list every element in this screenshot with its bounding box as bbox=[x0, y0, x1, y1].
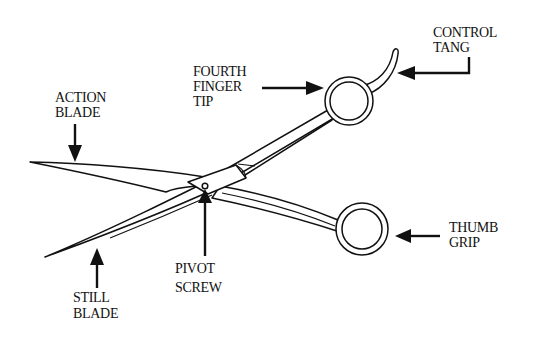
scissors-diagram: ACTION BLADE FOURTH FINGER TIP CONTROL T… bbox=[0, 0, 536, 338]
action-blade bbox=[30, 162, 205, 192]
action-blade-label-line2: BLADE bbox=[55, 105, 100, 120]
pivot-screw-label-line2: SCREW bbox=[175, 280, 223, 295]
control-tang-label-line1: CONTROL bbox=[433, 25, 497, 40]
arrow-left-icon bbox=[395, 229, 411, 243]
control-tang-arrow-shaft bbox=[412, 57, 469, 73]
label-thumb-grip: THUMB GRIP bbox=[395, 220, 498, 250]
label-fourth-finger-tip: FOURTH FINGER TIP bbox=[193, 64, 324, 109]
thumb-handle-shank bbox=[212, 186, 340, 232]
thumb-ring-inner bbox=[342, 209, 382, 249]
finger-handle-shank bbox=[228, 110, 334, 176]
arrow-up-icon bbox=[90, 248, 104, 265]
control-tang-label-line2: TANG bbox=[433, 40, 470, 55]
arrow-left-icon bbox=[397, 66, 415, 80]
arrow-right-icon bbox=[306, 81, 324, 95]
label-still-blade: STILL BLADE bbox=[73, 248, 118, 321]
arrow-down-icon bbox=[68, 145, 82, 162]
still-blade-label-line1: STILL bbox=[73, 290, 110, 305]
thumb-grip-label-line2: GRIP bbox=[449, 235, 480, 250]
still-blade-label-line2: BLADE bbox=[73, 306, 118, 321]
label-control-tang: CONTROL TANG bbox=[397, 25, 497, 80]
label-pivot-screw: PIVOT SCREW bbox=[175, 189, 223, 295]
label-action-blade: ACTION BLADE bbox=[55, 90, 106, 162]
fourth-finger-label-line2: FINGER bbox=[193, 79, 243, 94]
pivot-screw-head bbox=[202, 183, 208, 189]
thumb-grip-label-line1: THUMB bbox=[449, 220, 498, 235]
pivot-screw-label-line1: PIVOT bbox=[175, 261, 215, 276]
fourth-finger-label-line3: TIP bbox=[193, 94, 214, 109]
fourth-finger-label-line1: FOURTH bbox=[193, 64, 247, 79]
fourth-finger-ring-inner bbox=[330, 82, 368, 120]
action-blade-label-line1: ACTION bbox=[55, 90, 106, 105]
